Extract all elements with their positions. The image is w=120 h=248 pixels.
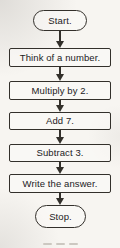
arrowhead-down-icon xyxy=(56,41,64,48)
node-stop: Stop. xyxy=(35,205,86,228)
arrowhead-down-icon xyxy=(56,198,64,205)
node-stop-label: Stop. xyxy=(49,212,72,222)
flow-line xyxy=(59,67,61,74)
flow-line xyxy=(59,31,61,41)
cropped-glyph-fragment xyxy=(56,243,65,245)
node-think-label: Think of a number. xyxy=(20,53,100,63)
node-think-of-a-number: Think of a number. xyxy=(9,48,111,67)
arrowhead-down-icon xyxy=(56,167,64,174)
arrowhead-down-icon xyxy=(56,74,64,81)
node-add-7: Add 7. xyxy=(9,112,111,130)
edge-start-think xyxy=(0,31,120,48)
edge-think-multiply xyxy=(0,67,120,81)
edge-add-subtract xyxy=(0,130,120,144)
cropped-glyph-fragment xyxy=(69,243,78,245)
flow-line xyxy=(59,130,61,137)
cropped-glyph-fragment xyxy=(43,243,52,245)
edge-write-stop xyxy=(0,193,120,205)
node-multiply-label: Multiply by 2. xyxy=(32,86,89,96)
cropped-page-number xyxy=(0,243,120,245)
edge-subtract-write xyxy=(0,162,120,174)
node-add-label: Add 7. xyxy=(46,116,74,126)
flowchart-page: Start. Think of a number. Multiply by 2.… xyxy=(0,0,120,248)
node-start-label: Start. xyxy=(48,16,71,26)
node-start: Start. xyxy=(33,10,87,31)
node-write-the-answer: Write the answer. xyxy=(9,174,111,193)
node-multiply-by-2: Multiply by 2. xyxy=(9,81,111,100)
node-write-label: Write the answer. xyxy=(23,179,98,189)
edge-multiply-add xyxy=(0,100,120,112)
node-subtract-label: Subtract 3. xyxy=(36,148,83,158)
arrowhead-down-icon xyxy=(56,105,64,112)
arrowhead-down-icon xyxy=(56,137,64,144)
node-subtract-3: Subtract 3. xyxy=(9,144,111,162)
